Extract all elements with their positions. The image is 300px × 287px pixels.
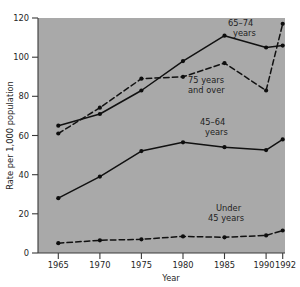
line-chart: 0 20 40 60 80 100 120 1965 1970 1975 198… [0, 0, 300, 287]
caption-partial-text [0, 279, 300, 287]
x-tick-label-1970: 1970 [89, 260, 110, 270]
annotation-45-64-line1: 45–64 [200, 117, 225, 127]
annotation-45-64: 45–64 years [200, 117, 228, 137]
y-axis-title: Rate per 1,000 population [5, 81, 15, 190]
y-tick-label-80: 80 [18, 91, 29, 101]
annotation-45-64-line2: years [205, 127, 228, 137]
y-axis-tick-labels: 0 20 40 60 80 100 120 [13, 13, 29, 258]
figure-container: 0 20 40 60 80 100 120 1965 1970 1975 198… [0, 0, 300, 287]
annotation-under-45-line1: Under [216, 203, 242, 213]
y-tick-label-20: 20 [18, 209, 29, 219]
x-axis-tick-labels: 1965 1970 1975 1980 1985 1990 1992 [48, 260, 296, 270]
x-tick-label-1990: 1990 [253, 260, 274, 270]
annotation-75-and-over: 75 years and over [188, 75, 225, 95]
y-tick-label-100: 100 [13, 52, 29, 62]
y-tick-label-120: 120 [13, 13, 29, 23]
x-tick-label-1985: 1985 [214, 260, 235, 270]
y-tick-label-40: 40 [18, 170, 29, 180]
y-tick-label-0: 0 [24, 248, 29, 258]
x-axis-ticks [58, 253, 282, 259]
y-tick-label-60: 60 [18, 131, 29, 141]
annotation-65-74-line1: 65–74 [228, 18, 253, 28]
annotation-65-74: 65–74 years [228, 18, 256, 38]
annotation-75-over-line1: 75 years [188, 75, 224, 85]
x-tick-label-1992: 1992 [275, 260, 296, 270]
x-tick-label-1980: 1980 [172, 260, 193, 270]
plot-area-background [38, 18, 285, 253]
x-tick-label-1975: 1975 [131, 260, 152, 270]
x-tick-label-1965: 1965 [48, 260, 69, 270]
y-axis-ticks [32, 18, 38, 253]
annotation-75-over-line2: and over [188, 85, 225, 95]
annotation-65-74-line2: years [233, 28, 256, 38]
annotation-under-45-line2: 45 years [208, 213, 244, 223]
